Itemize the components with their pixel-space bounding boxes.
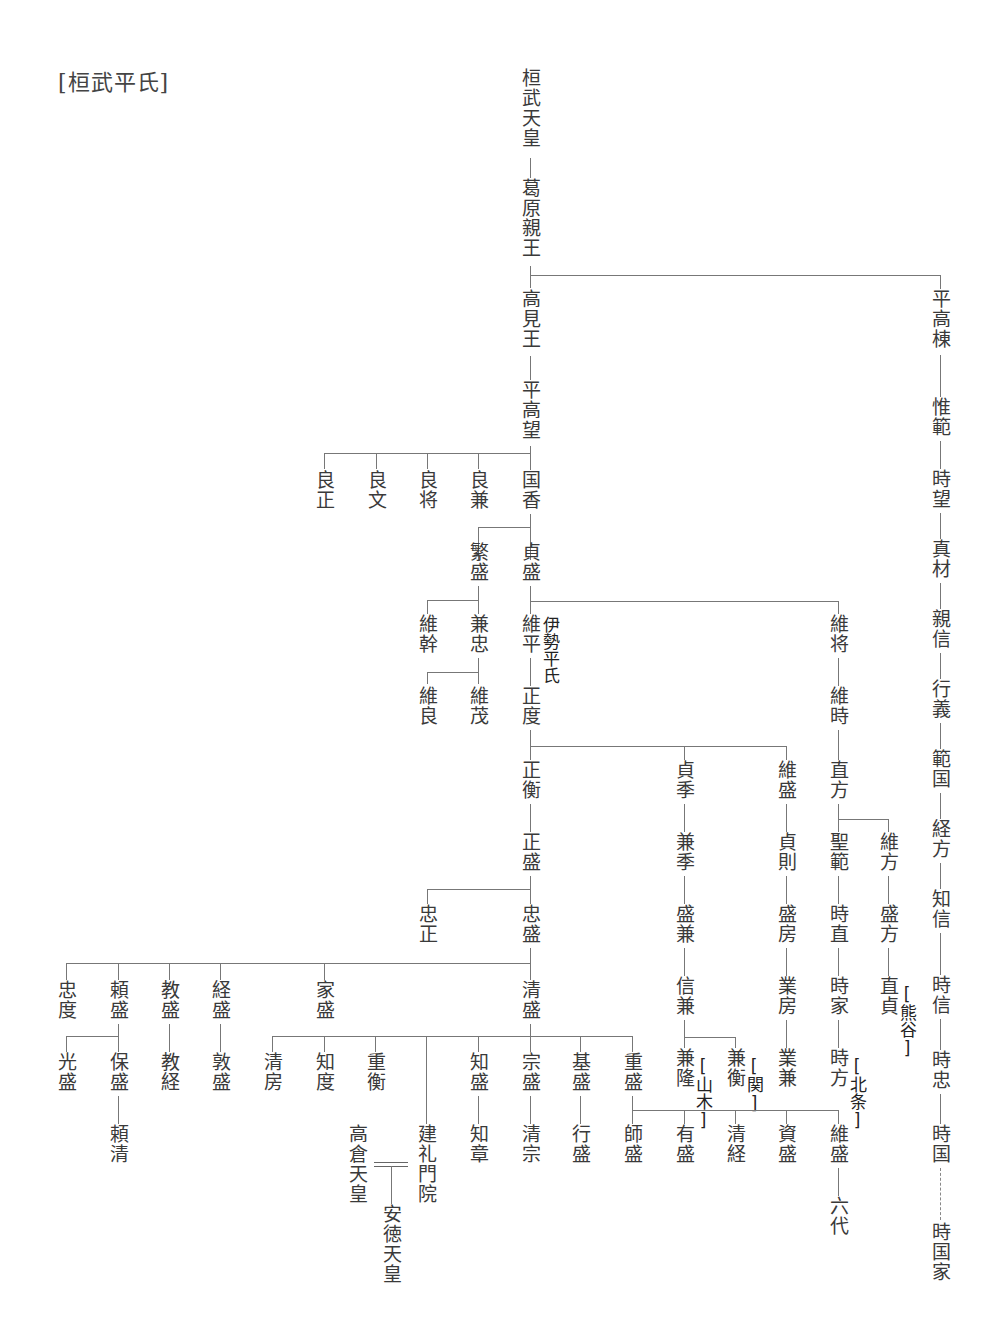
node-tadanori: 忠度 bbox=[55, 980, 77, 1020]
node-takamochi: 平高望 bbox=[519, 380, 541, 440]
connector bbox=[66, 1036, 67, 1052]
node-sadanori: 貞則 bbox=[775, 832, 797, 872]
connector bbox=[427, 453, 428, 469]
connector bbox=[478, 453, 479, 469]
node-koreyoshi: 維良 bbox=[416, 686, 438, 726]
node-naozane: 直貞 bbox=[877, 976, 899, 1016]
node-yoshifumi: 良文 bbox=[365, 470, 387, 510]
connector bbox=[478, 586, 479, 614]
node-chikanobu: 親信 bbox=[929, 609, 951, 649]
connector bbox=[530, 275, 940, 276]
tag-ise-heishi: 伊勢平氏 bbox=[540, 616, 560, 684]
connector bbox=[735, 1110, 736, 1124]
node-narikane: 業兼 bbox=[775, 1048, 797, 1088]
connector bbox=[272, 1036, 632, 1037]
connector bbox=[786, 1020, 787, 1048]
connector bbox=[391, 1166, 392, 1204]
connector bbox=[838, 730, 839, 760]
connector bbox=[478, 1036, 479, 1052]
node-shigemori: 重盛 bbox=[621, 1052, 643, 1092]
connector bbox=[940, 1094, 941, 1124]
node-kanetada: 兼忠 bbox=[467, 614, 489, 654]
node-tomonori: 知度 bbox=[313, 1052, 335, 1092]
connector bbox=[838, 876, 839, 904]
node-antoku: 安徳天皇 bbox=[380, 1204, 402, 1284]
node-yoshimasa2: 良将 bbox=[416, 470, 438, 510]
connector bbox=[530, 1024, 531, 1052]
connector bbox=[530, 746, 786, 747]
connector bbox=[324, 963, 325, 980]
node-takami: 高見王 bbox=[519, 289, 541, 349]
connector bbox=[427, 672, 428, 684]
connector bbox=[530, 586, 531, 614]
node-koremasa: 維将 bbox=[827, 614, 849, 654]
connector bbox=[118, 1024, 119, 1052]
chart-title: [桓武平氏] bbox=[58, 64, 169, 96]
connector bbox=[838, 819, 888, 820]
tag-kumagai: [熊谷] bbox=[897, 984, 917, 1058]
connector bbox=[530, 601, 838, 602]
node-tomoakira: 知章 bbox=[467, 1124, 489, 1164]
node-yoshimasa: 良正 bbox=[313, 470, 335, 510]
connector bbox=[66, 963, 67, 980]
node-kiyotsune: 清経 bbox=[724, 1124, 746, 1164]
connector bbox=[530, 158, 531, 178]
connector bbox=[735, 1037, 736, 1048]
connector bbox=[940, 723, 941, 749]
dashed-connector bbox=[940, 1168, 941, 1220]
node-sukemori: 資盛 bbox=[775, 1124, 797, 1164]
node-narifusa: 業房 bbox=[775, 976, 797, 1016]
node-koreshige: 維茂 bbox=[467, 686, 489, 726]
node-tokiie: 時家 bbox=[827, 976, 849, 1016]
connector bbox=[427, 889, 428, 904]
connector bbox=[940, 933, 941, 975]
node-tadamasa: 忠正 bbox=[416, 904, 438, 944]
node-mitsumori: 光盛 bbox=[55, 1052, 77, 1092]
node-motomori: 基盛 bbox=[569, 1052, 591, 1092]
connector bbox=[940, 275, 941, 289]
node-tokikunie: 時国家 bbox=[929, 1222, 951, 1282]
connector bbox=[684, 948, 685, 976]
node-kanmu: 桓武天皇 bbox=[519, 68, 541, 148]
connector bbox=[169, 1024, 170, 1052]
connector bbox=[478, 527, 530, 528]
connector bbox=[838, 1110, 839, 1124]
node-kiyomori: 清盛 bbox=[519, 980, 541, 1020]
node-kenreimonin: 建礼門院 bbox=[415, 1124, 437, 1204]
connector bbox=[684, 1110, 685, 1124]
node-sadasue: 貞季 bbox=[673, 760, 695, 800]
node-koremori: 維盛 bbox=[827, 1124, 849, 1164]
connector bbox=[118, 1096, 119, 1124]
connector bbox=[272, 1036, 273, 1052]
node-nobukane: 信兼 bbox=[673, 976, 695, 1016]
node-norikuni: 範国 bbox=[929, 749, 951, 789]
node-shigemori0: 繁盛 bbox=[467, 542, 489, 582]
node-koremori0: 維盛 bbox=[775, 760, 797, 800]
node-kiyomune: 清宗 bbox=[519, 1124, 541, 1164]
node-masamori: 正盛 bbox=[519, 832, 541, 872]
connector bbox=[838, 601, 839, 614]
node-tsunemori: 経盛 bbox=[209, 980, 231, 1020]
node-yukiyoshi: 行義 bbox=[929, 679, 951, 719]
node-tokimochi: 時望 bbox=[929, 469, 951, 509]
connector bbox=[786, 948, 787, 976]
connector bbox=[940, 441, 941, 469]
node-iemori: 家盛 bbox=[313, 980, 335, 1020]
node-korenori: 惟範 bbox=[929, 397, 951, 437]
node-shigehira: 重衡 bbox=[364, 1052, 386, 1092]
node-kiyofusa: 清房 bbox=[261, 1052, 283, 1092]
connector bbox=[66, 1036, 118, 1037]
connector bbox=[220, 963, 221, 980]
node-yoshikane: 良兼 bbox=[467, 470, 489, 510]
connector bbox=[427, 600, 428, 614]
node-takamune: 平高棟 bbox=[929, 289, 951, 349]
node-tokikuni: 時国 bbox=[929, 1124, 951, 1164]
node-tokikata: 時方 bbox=[827, 1048, 849, 1088]
node-morikane: 盛兼 bbox=[673, 904, 695, 944]
connector bbox=[66, 963, 530, 964]
node-tokinobu: 時信 bbox=[929, 975, 951, 1015]
connector bbox=[786, 804, 787, 832]
node-norimori: 教盛 bbox=[158, 980, 180, 1020]
node-naokata: 直方 bbox=[827, 760, 849, 800]
connector bbox=[888, 819, 889, 832]
